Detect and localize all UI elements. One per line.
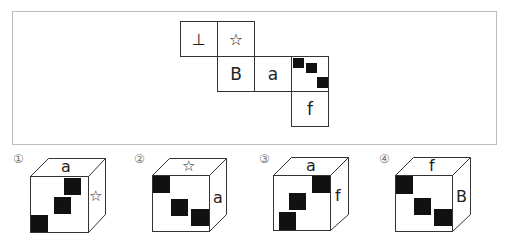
cube-right-label: f [335, 188, 341, 204]
option-1[interactable]: ① a ☆ [0, 148, 125, 243]
net-cell-f: f [291, 91, 329, 127]
cube-top-label: a [61, 159, 71, 175]
option-number: ② [134, 152, 145, 166]
black-square-icon [317, 77, 328, 88]
black-square-icon [306, 63, 317, 73]
net-cell-star: ☆ [217, 21, 255, 57]
cube-outline-icon [375, 148, 500, 243]
cube-right-label: a [213, 190, 223, 206]
option-number: ④ [379, 152, 390, 166]
option-3[interactable]: ③ a f [250, 148, 375, 243]
net-cell-a: a [254, 56, 292, 92]
option-2[interactable]: ② ☆ a [125, 148, 250, 243]
cube-right-label: B [456, 189, 467, 205]
cube-top-label: f [429, 158, 435, 174]
option-4[interactable]: ④ f B [375, 148, 500, 243]
cube-top-label: ☆ [182, 159, 195, 174]
cube-top-label: a [306, 158, 316, 174]
cube-right-label: ☆ [89, 189, 102, 204]
option-number: ① [13, 152, 24, 166]
black-square-icon [293, 58, 304, 68]
option-number: ③ [259, 152, 270, 166]
net-cell-perpendicular: ⊥ [180, 21, 218, 57]
net-cell-B: B [217, 56, 255, 92]
net-cell-squares [291, 56, 329, 92]
